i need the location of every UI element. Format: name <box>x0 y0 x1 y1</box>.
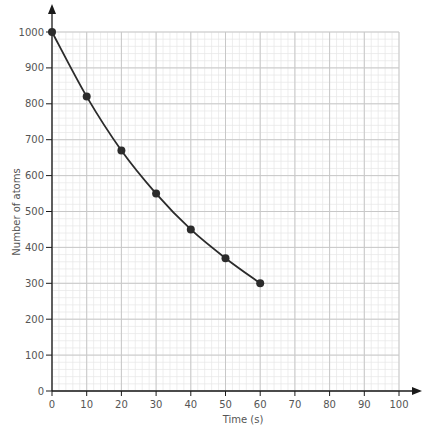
axes <box>46 4 422 396</box>
y-tick-label: 300 <box>25 278 44 289</box>
x-tick-label: 80 <box>323 399 336 410</box>
tick-labels: 0100200300400500600700800900100001020304… <box>19 27 409 411</box>
y-tick-label: 500 <box>25 206 44 217</box>
y-tick-label: 700 <box>25 134 44 145</box>
y-tick-label: 800 <box>25 98 44 109</box>
data-point <box>48 28 56 36</box>
data-point <box>187 225 195 233</box>
decay-chart: 0100200300400500600700800900100001020304… <box>0 0 426 432</box>
data-point <box>83 93 91 101</box>
y-tick-label: 600 <box>25 170 44 181</box>
x-tick-label: 70 <box>289 399 302 410</box>
x-axis-title: Time (s) <box>222 414 264 425</box>
x-tick-label: 50 <box>219 399 232 410</box>
y-axis-arrow-icon <box>48 4 56 14</box>
y-axis-title: Number of atoms <box>11 168 22 255</box>
x-tick-label: 40 <box>184 399 197 410</box>
x-tick-label: 100 <box>389 399 408 410</box>
x-tick-label: 20 <box>115 399 128 410</box>
y-tick-label: 1000 <box>19 27 44 38</box>
x-tick-label: 10 <box>80 399 93 410</box>
data-point <box>152 190 160 198</box>
x-tick-label: 30 <box>150 399 163 410</box>
x-tick-label: 60 <box>254 399 267 410</box>
y-tick-label: 0 <box>38 386 44 397</box>
grid-major <box>52 32 399 391</box>
data-point <box>117 146 125 154</box>
x-tick-label: 0 <box>49 399 55 410</box>
data-point <box>222 254 230 262</box>
y-tick-label: 900 <box>25 62 44 73</box>
data-point <box>256 279 264 287</box>
y-tick-label: 100 <box>25 350 44 361</box>
x-axis-arrow-icon <box>412 387 422 395</box>
y-tick-label: 200 <box>25 314 44 325</box>
y-tick-label: 400 <box>25 242 44 253</box>
x-tick-label: 90 <box>358 399 371 410</box>
